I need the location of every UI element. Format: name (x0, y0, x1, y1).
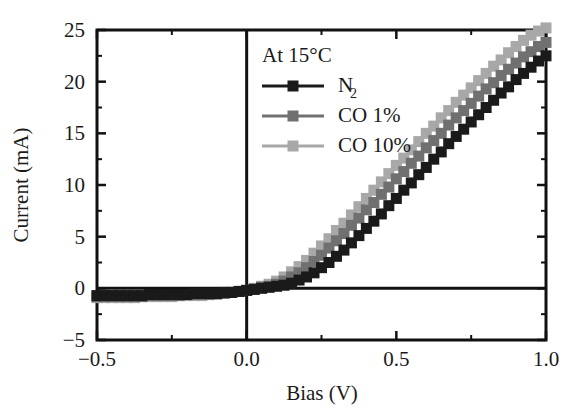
y-tick-label: 25 (64, 18, 85, 42)
chart-figure: −0.50.00.51.0 −50510152025 Bias (V) Curr… (0, 0, 587, 413)
legend-marker-0 (288, 81, 299, 92)
x-tick-label: 0.5 (383, 347, 409, 371)
y-tick-label: 15 (64, 121, 85, 145)
series-marker (541, 37, 552, 48)
legend-marker-2 (288, 141, 299, 152)
iv-curve-chart: −0.50.00.51.0 −50510152025 Bias (V) Curr… (0, 0, 587, 413)
legend-marker-1 (288, 111, 299, 122)
x-tick-label: 1.0 (533, 347, 559, 371)
y-tick-label: 5 (75, 225, 86, 249)
y-tick-label: −5 (63, 328, 85, 352)
x-tick-label: 0.0 (234, 347, 260, 371)
y-tick-label: 20 (64, 70, 85, 94)
y-axis-title: Current (mA) (9, 128, 33, 243)
x-axis-title: Bias (V) (286, 381, 358, 405)
legend-annotation: At 15°C (262, 43, 332, 67)
y-tick-label: 10 (64, 173, 85, 197)
legend-label-2: CO 10% (338, 133, 411, 157)
legend-label-1: CO 1% (338, 103, 400, 127)
series-marker (541, 22, 552, 33)
legend-label-sub-0: 2 (350, 86, 357, 101)
y-tick-label: 0 (75, 276, 86, 300)
series-marker (541, 50, 552, 61)
